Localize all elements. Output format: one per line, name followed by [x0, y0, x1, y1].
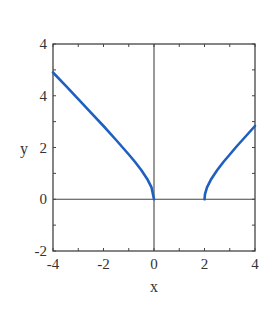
x-tick-label: 0 — [150, 256, 158, 272]
y-tick-label: 4 — [40, 36, 48, 52]
x-tick-label: -2 — [97, 256, 110, 272]
y-tick-label: -2 — [35, 243, 48, 259]
y-tick-label: 0 — [40, 191, 48, 207]
x-tick-label: -4 — [47, 256, 60, 272]
y-tick-label: 4 — [40, 88, 48, 104]
zero-lines — [53, 44, 255, 251]
series-line — [53, 73, 154, 200]
series-line — [205, 126, 256, 199]
tick-labels: -4-2024-20244 — [35, 36, 260, 272]
y-axis-label: y — [20, 140, 28, 158]
y-tick-label: 2 — [40, 140, 48, 156]
x-axis-label: x — [150, 278, 158, 295]
x-tick-label: 2 — [201, 256, 209, 272]
chart: -4-2024-20244 x y — [0, 0, 270, 313]
x-tick-label: 4 — [251, 256, 259, 272]
